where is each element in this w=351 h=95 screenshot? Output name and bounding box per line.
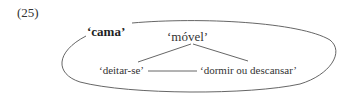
example-number: (25): [17, 6, 39, 19]
left-leaf-node: ‘deitar-se’: [99, 65, 144, 76]
branch-left: [138, 44, 191, 62]
right-leaf-node: ‘dormir ou descansar’: [200, 65, 297, 76]
branch-right: [193, 44, 248, 61]
frame-label: ‘cama’: [87, 25, 125, 38]
diagram-lines: [0, 0, 351, 95]
root-node: ‘móvel’: [167, 30, 208, 43]
